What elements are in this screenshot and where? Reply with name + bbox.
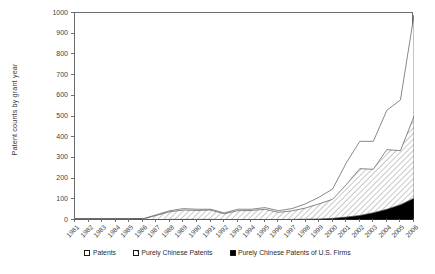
- x-tick-mark: [318, 219, 319, 222]
- x-tick-mark: [210, 219, 211, 222]
- x-tick-mark: [74, 219, 75, 222]
- legend-item[interactable]: Patents: [84, 250, 116, 257]
- patent-counts-area-chart: Patent counts by grant year 010020030040…: [0, 0, 435, 274]
- x-tick-mark: [101, 219, 102, 222]
- x-tick-mark: [88, 219, 89, 222]
- x-tick-mark: [372, 219, 373, 222]
- x-tick-mark: [305, 219, 306, 222]
- legend-label: Patents: [93, 250, 116, 257]
- x-tick-mark: [291, 219, 292, 222]
- x-tick-mark: [250, 219, 251, 222]
- x-tick-mark: [142, 219, 143, 222]
- legend-label: Purely Chinese Patents: [141, 250, 212, 257]
- x-tick-mark: [169, 219, 170, 222]
- x-tick-mark: [277, 219, 278, 222]
- x-tick-mark: [196, 219, 197, 222]
- black-square-icon: [230, 250, 236, 256]
- x-tick-mark: [399, 219, 400, 222]
- x-tick-mark: [223, 219, 224, 222]
- x-axis-ticks: 1981198219831984198519861987198819891990…: [0, 0, 435, 274]
- chart-legend: PatentsPurely Chinese PatentsPurely Chin…: [0, 250, 435, 257]
- x-tick-mark: [332, 219, 333, 222]
- legend-label: Purely Chinese Patents of U.S. Firms: [238, 250, 351, 257]
- x-tick-mark: [359, 219, 360, 222]
- hatched-square-icon: [133, 250, 139, 256]
- x-tick-mark: [115, 219, 116, 222]
- legend-item[interactable]: Purely Chinese Patents: [133, 250, 213, 257]
- white-square-icon: [84, 250, 90, 256]
- x-tick-mark: [345, 219, 346, 222]
- x-tick-mark: [386, 219, 387, 222]
- x-tick-mark: [182, 219, 183, 222]
- x-tick-mark: [237, 219, 238, 222]
- legend-item[interactable]: Purely Chinese Patents of U.S. Firms: [230, 250, 351, 257]
- x-tick-mark: [155, 219, 156, 222]
- x-tick-mark: [413, 219, 414, 222]
- x-tick-mark: [128, 219, 129, 222]
- x-tick-mark: [264, 219, 265, 222]
